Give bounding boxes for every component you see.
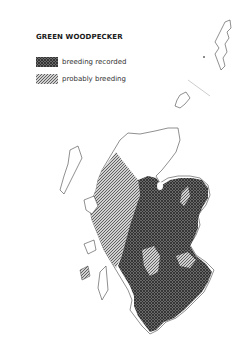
legend-label-recorded: breeding recorded [62,58,126,66]
western-isles [60,146,82,194]
cross-hatch-swatch-icon [36,57,58,67]
legend-item-probably-breeding: probably breeding [36,74,126,84]
orkney-islands [175,92,190,108]
map-title: GREEN WOODPECKER [36,33,123,41]
arran-kintyre [98,266,108,300]
diagonal-hatch-swatch-icon [36,74,58,84]
mull [84,240,96,254]
scotland-map [0,0,246,351]
legend-label-probable: probably breeding [62,75,126,83]
legend-item-breeding-recorded: breeding recorded [36,57,126,67]
islay [80,266,90,280]
shetland-islands [215,20,231,70]
